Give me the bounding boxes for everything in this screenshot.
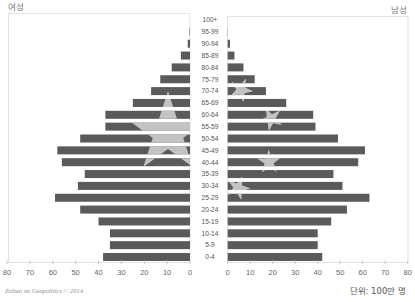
female-bar <box>55 194 190 202</box>
age-group-label: 40-44 <box>202 159 219 166</box>
x-tick-label: 30 <box>117 268 125 277</box>
male-bar <box>228 99 287 107</box>
age-group-labels: 100+95-9990-9485-8980-8475-7970-7465-696… <box>202 16 219 260</box>
age-group-label: 5-9 <box>205 241 215 248</box>
male-bar <box>228 40 230 48</box>
x-tick-label: 50 <box>71 268 79 277</box>
x-tick-label: 40 <box>94 268 102 277</box>
age-group-label: 0-4 <box>205 253 215 260</box>
x-tick-label: 50 <box>336 268 344 277</box>
age-group-label: 30-34 <box>202 182 219 189</box>
age-group-label: 65-69 <box>202 99 219 106</box>
male-label: 남성 <box>391 5 407 15</box>
age-group-label: 10-14 <box>202 230 219 237</box>
age-group-label: 95-99 <box>202 28 219 35</box>
x-tick-label: 20 <box>140 268 148 277</box>
male-bar <box>228 206 347 214</box>
age-group-label: 45-49 <box>202 147 219 154</box>
age-group-label: 25-29 <box>202 194 219 201</box>
male-bars <box>228 28 370 261</box>
x-tick-label: 30 <box>291 268 299 277</box>
age-group-label: 100+ <box>203 16 218 23</box>
age-group-label: 85-89 <box>202 52 219 59</box>
male-bar <box>228 146 365 154</box>
male-bar <box>228 63 244 71</box>
x-tick-label: 80 <box>404 268 412 277</box>
age-group-label: 60-64 <box>202 111 219 118</box>
x-tick-label: 0 <box>226 268 230 277</box>
female-bar <box>80 206 190 214</box>
x-tick-label: 0 <box>188 268 192 277</box>
x-tick-label: 60 <box>359 268 367 277</box>
female-bar <box>105 111 190 119</box>
female-bar <box>99 217 191 225</box>
female-bar <box>172 63 190 71</box>
male-bar <box>228 217 332 225</box>
female-bar <box>160 75 190 83</box>
x-tick-label: 70 <box>26 268 34 277</box>
age-group-label: 75-79 <box>202 76 219 83</box>
population-pyramid-chart: 100+95-9990-9485-8980-8475-7970-7465-696… <box>0 0 415 302</box>
female-bar <box>110 229 190 237</box>
age-group-label: 15-19 <box>202 218 219 225</box>
female-bar <box>188 40 190 48</box>
unit-label: 단위: 100만 명 <box>350 286 407 296</box>
female-bar <box>151 87 190 95</box>
x-tick-label: 60 <box>49 268 57 277</box>
female-bar <box>85 170 190 178</box>
female-label: 여성 <box>8 2 24 12</box>
x-tick-label: 40 <box>314 268 322 277</box>
male-bar <box>228 158 359 166</box>
x-tick-label: 80 <box>3 268 11 277</box>
female-bar <box>110 241 190 249</box>
male-bar <box>228 75 255 83</box>
x-tick-label: 20 <box>269 268 277 277</box>
age-group-label: 50-54 <box>202 135 219 142</box>
credit-text: Zoltan on Geopolitics © 2014 <box>5 287 84 294</box>
x-tick-label: 10 <box>163 268 171 277</box>
x-tick-label: 70 <box>381 268 389 277</box>
male-bar <box>228 194 370 202</box>
female-bar <box>181 52 190 60</box>
male-bar <box>228 52 235 60</box>
age-group-label: 20-24 <box>202 206 219 213</box>
x-tick-label: 10 <box>246 268 254 277</box>
female-bar <box>103 253 190 261</box>
age-group-label: 35-39 <box>202 170 219 177</box>
female-bar <box>78 182 190 190</box>
age-group-label: 80-84 <box>202 64 219 71</box>
male-bar <box>228 241 318 249</box>
female-bar <box>62 158 190 166</box>
male-bar <box>228 229 318 237</box>
male-bar <box>228 135 338 143</box>
male-bar <box>228 253 323 261</box>
male-bar <box>228 170 334 178</box>
female-bars <box>55 28 190 261</box>
age-group-label: 70-74 <box>202 87 219 94</box>
female-bar <box>133 99 190 107</box>
age-group-label: 90-94 <box>202 40 219 47</box>
age-group-label: 55-59 <box>202 123 219 130</box>
